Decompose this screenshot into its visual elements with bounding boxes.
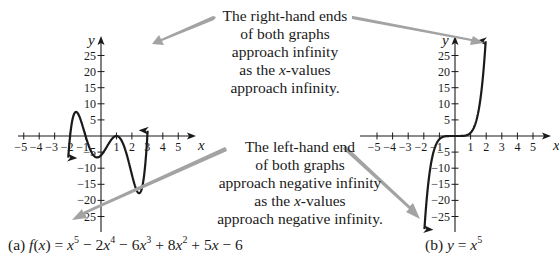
y-tick-label: 25 bbox=[84, 49, 96, 63]
annotation-line: approach infinity bbox=[218, 43, 352, 61]
callout-arrow-top-left bbox=[152, 16, 216, 45]
x-tick-label: 5 bbox=[175, 140, 181, 154]
annotation-left-hand-end: The left-hand end of both graphs approac… bbox=[200, 138, 400, 228]
y-tick-label: −15 bbox=[77, 177, 96, 191]
y-tick-label: 15 bbox=[84, 81, 96, 95]
y-tick-label: −5 bbox=[437, 145, 450, 159]
caption-b: (b) y = x5 bbox=[425, 236, 482, 254]
y-tick-label: −20 bbox=[431, 193, 450, 207]
y-tick-label: 15 bbox=[438, 81, 450, 95]
y-tick-label: 5 bbox=[90, 113, 96, 127]
y-tick-label: −25 bbox=[431, 210, 450, 224]
y-tick-label: −10 bbox=[431, 161, 450, 175]
caption-b-label: (b) bbox=[425, 236, 443, 253]
annotation-line: approach infinity. bbox=[218, 79, 352, 97]
x-tick-label: 2 bbox=[129, 140, 135, 154]
annotation-right-hand-ends: The right-hand ends of both graphs appro… bbox=[218, 7, 352, 97]
x-tick-label: 4 bbox=[160, 140, 166, 154]
annotation-line: The right-hand ends bbox=[218, 7, 352, 25]
x-tick-label: −3 bbox=[45, 140, 58, 154]
x-tick-label: 4 bbox=[514, 140, 520, 154]
caption-b-function: y = x5 bbox=[447, 236, 482, 253]
annotation-line: as the x-values bbox=[218, 61, 352, 79]
x-tick-label: −2 bbox=[414, 140, 427, 154]
annotation-line: approach negative infinity. bbox=[200, 210, 400, 228]
y-tick-label: 20 bbox=[438, 65, 450, 79]
x-tick-label: 1 bbox=[468, 140, 474, 154]
x-axis-label: x bbox=[552, 137, 559, 153]
annotation-line: as the x-values bbox=[200, 192, 400, 210]
y-axis-label: y bbox=[86, 32, 95, 48]
y-tick-label: 10 bbox=[84, 97, 96, 111]
x-tick-label: 1 bbox=[113, 140, 119, 154]
callout-arrow-top-right bbox=[352, 16, 484, 45]
annotation-line: The left-hand end bbox=[200, 138, 400, 156]
y-tick-label: −20 bbox=[77, 193, 96, 207]
x-tick-label: −3 bbox=[399, 140, 412, 154]
annotation-line: approach negative infinity bbox=[200, 174, 400, 192]
y-tick-label: 5 bbox=[444, 113, 450, 127]
y-tick-label: 10 bbox=[438, 97, 450, 111]
x-tick-label: −2 bbox=[61, 140, 74, 154]
x-tick-label: −5 bbox=[14, 140, 27, 154]
caption-a-label: (a) bbox=[8, 236, 25, 253]
x-tick-label: 5 bbox=[530, 140, 536, 154]
x-tick-label: −4 bbox=[30, 140, 43, 154]
y-tick-label: 20 bbox=[84, 65, 96, 79]
annotation-line: of both graphs bbox=[200, 156, 400, 174]
y-tick-label: −15 bbox=[431, 177, 450, 191]
caption-a: (a) f(x) = x5 − 2x4 − 6x3 + 8x2 + 5x − 6 bbox=[8, 236, 243, 254]
annotation-line: of both graphs bbox=[218, 25, 352, 43]
x-tick-label: 3 bbox=[499, 140, 505, 154]
caption-a-function: f(x) = x5 − 2x4 − 6x3 + 8x2 + 5x − 6 bbox=[29, 236, 243, 253]
y-tick-label: 25 bbox=[438, 49, 450, 63]
y-tick-label: −10 bbox=[77, 161, 96, 175]
x-tick-label: 2 bbox=[483, 140, 489, 154]
